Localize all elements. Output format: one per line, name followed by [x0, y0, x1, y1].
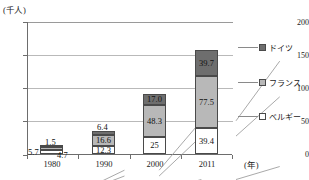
- x-tick-mark-2: [130, 155, 131, 159]
- legend-label-belgium: ベルギー: [269, 111, 301, 122]
- bar-segment-germany-2000: 17.0: [143, 94, 166, 105]
- bar-group-2011: 39.4 77.5 39.7: [195, 50, 218, 154]
- plot-area: 12.3 16.6 25 48.3 17.0 39.4 7: [27, 22, 232, 155]
- bar-group-2000: 25 48.3 17.0: [143, 94, 166, 154]
- bar-label-belgium-2000: 25: [150, 141, 159, 150]
- bar-segment-belgium-2000: 25: [143, 137, 166, 154]
- legend-item-germany[interactable]: ドイツ: [259, 42, 293, 53]
- bar-label-germany-1990: 6.4: [97, 122, 108, 132]
- legend-label-france: フランス: [269, 77, 301, 88]
- legend-item-belgium[interactable]: ベルギー: [259, 111, 301, 122]
- legend-leader-belgium: [238, 116, 258, 117]
- bar-segment-germany-2011: 39.7: [195, 50, 218, 76]
- bar-segment-belgium-2011: 39.4: [195, 128, 218, 154]
- bar-label-germany-2000: 17.0: [147, 95, 162, 104]
- legend-leader-germany: [238, 47, 258, 48]
- gridline-200: [28, 22, 233, 23]
- bar-segment-france-2011: 77.5: [195, 76, 218, 128]
- bar-label-france-1990: 16.6: [96, 136, 111, 145]
- legend-leader-france: [238, 82, 258, 83]
- bar-segment-belgium-1990: 12.3: [92, 146, 115, 154]
- bar-segment-france-2000: 48.3: [143, 105, 166, 137]
- x-tick-mark-1: [78, 155, 79, 159]
- bar-label-belgium-2011: 39.4: [199, 137, 214, 146]
- x-tick-mark-end: [232, 155, 233, 159]
- legend-swatch-germany-icon: [259, 44, 266, 51]
- bar-group-1990: 12.3 16.6: [92, 131, 115, 155]
- legend-swatch-france-icon: [259, 79, 266, 86]
- legend-swatch-belgium-icon: [259, 113, 266, 120]
- bar-label-france-2000: 48.3: [147, 117, 162, 126]
- bar-label-belgium-1990: 12.3: [96, 146, 111, 155]
- bar-label-france-1980: 4.7: [57, 150, 68, 160]
- x-tick-label-2011: 2011: [187, 159, 227, 169]
- legend-item-france[interactable]: フランス: [259, 77, 301, 88]
- bar-label-germany-2011: 39.7: [199, 59, 214, 68]
- x-tick-mark-3: [181, 155, 182, 159]
- x-tick-label-1990: 1990: [84, 159, 124, 169]
- bar-label-france-2011: 77.5: [199, 98, 214, 107]
- bar-label-belgium-1980: 5.7: [28, 147, 39, 157]
- chart-legend: ドイツ フランス ベルギー: [255, 0, 309, 180]
- stacked-bar-chart: (千人) (年) 200 150 100 50 0 1980 1990 2000…: [0, 0, 309, 180]
- legend-label-germany: ドイツ: [269, 42, 293, 53]
- x-tick-label-1980: 1980: [32, 159, 72, 169]
- bar-label-germany-1980: 1.5: [45, 137, 56, 147]
- bar-segment-france-1990: 16.6: [92, 135, 115, 146]
- x-tick-label-2000: 2000: [135, 159, 175, 169]
- y-axis-title: (千人): [3, 3, 25, 15]
